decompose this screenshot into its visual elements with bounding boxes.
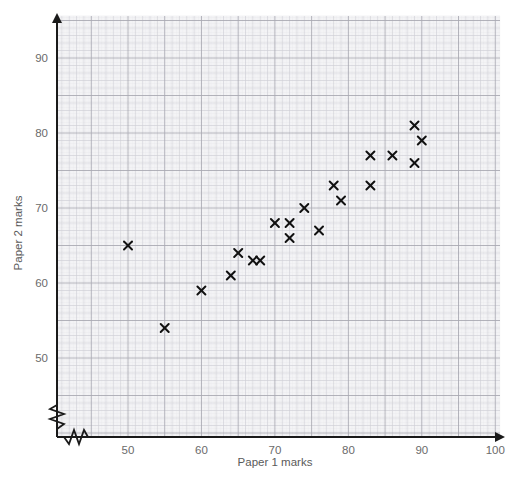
y-tick-label: 50 <box>35 352 48 364</box>
y-tick-label: 90 <box>35 52 48 64</box>
x-tick-label: 60 <box>195 444 208 456</box>
scatter-plot-page: 50607080901005060708090 Paper 1 marks Pa… <box>0 0 513 488</box>
x-tick-label: 70 <box>269 444 282 456</box>
x-tick-label: 80 <box>342 444 355 456</box>
y-axis-title: Paper 2 marks <box>12 195 24 270</box>
y-tick-label: 60 <box>35 277 48 289</box>
scatter-chart: 50607080901005060708090 Paper 1 marks Pa… <box>0 0 513 488</box>
x-tick-label: 100 <box>486 444 505 456</box>
y-tick-label: 80 <box>35 127 48 139</box>
x-tick-label: 90 <box>415 444 428 456</box>
y-tick-label: 70 <box>35 202 48 214</box>
x-tick-label: 50 <box>122 444 135 456</box>
x-axis-title: Paper 1 marks <box>238 456 313 468</box>
